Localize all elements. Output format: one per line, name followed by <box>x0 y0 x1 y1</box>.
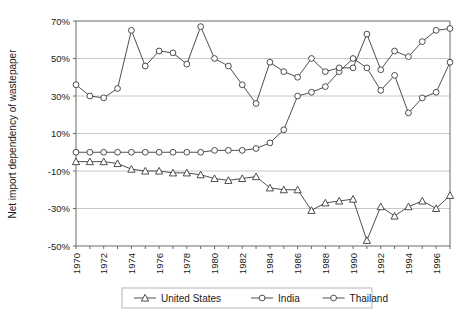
data-point <box>239 147 245 153</box>
y-tick-label: -30% <box>48 203 71 214</box>
y-axis-ticks: -50%-30%-10%10%30%50%70% <box>48 16 76 252</box>
data-point <box>322 84 328 90</box>
y-tick-label: 50% <box>51 53 71 64</box>
x-tick-label: 1982 <box>237 253 248 274</box>
series-line <box>76 162 450 241</box>
data-point <box>336 65 342 71</box>
x-tick-label: 1992 <box>375 253 386 274</box>
data-point <box>225 63 231 69</box>
data-point <box>115 86 121 92</box>
data-point <box>392 72 398 78</box>
data-point <box>295 93 301 99</box>
data-point <box>252 173 259 180</box>
data-point <box>433 89 439 95</box>
chart-container: Net import dependency of wastepaper -50%… <box>0 0 470 319</box>
data-point <box>308 207 315 214</box>
x-tick-label: 1972 <box>98 253 109 274</box>
data-point <box>198 24 204 30</box>
data-point <box>309 89 315 95</box>
data-point <box>115 149 121 155</box>
data-point <box>281 127 287 133</box>
data-point <box>349 196 356 203</box>
data-point <box>350 56 356 62</box>
data-point <box>391 212 398 219</box>
data-point <box>101 149 107 155</box>
data-point <box>184 149 190 155</box>
data-point <box>406 54 412 60</box>
data-point <box>295 74 301 80</box>
y-axis-title: Net import dependency of wastepaper <box>7 49 18 219</box>
data-point <box>392 48 398 54</box>
data-point <box>101 95 107 101</box>
data-point <box>212 147 218 153</box>
data-point <box>128 166 135 173</box>
y-tick-label: -50% <box>48 241 71 252</box>
series-thailand <box>73 24 453 107</box>
data-point <box>253 146 259 152</box>
series-line <box>76 27 450 104</box>
x-tick-label: 1988 <box>320 253 331 274</box>
data-point <box>405 203 412 210</box>
data-point <box>377 203 384 210</box>
legend-label: India <box>278 293 300 304</box>
x-tick-label: 1978 <box>181 253 192 274</box>
data-point <box>129 27 135 33</box>
chart-legend: United StatesIndiaThailand <box>122 288 388 308</box>
data-point <box>406 110 412 116</box>
data-point <box>378 87 384 93</box>
data-point <box>87 149 93 155</box>
data-point <box>364 31 370 37</box>
data-point <box>419 39 425 45</box>
legend-label: Thailand <box>350 293 388 304</box>
x-tick-label: 1970 <box>71 253 82 274</box>
data-point <box>239 82 245 88</box>
data-point <box>156 149 162 155</box>
data-point <box>142 63 148 69</box>
wastepaper-import-dependency-line-chart: Net import dependency of wastepaper -50%… <box>0 0 470 319</box>
x-tick-label: 1986 <box>292 253 303 274</box>
data-point <box>73 149 79 155</box>
data-point <box>129 149 135 155</box>
x-axis-ticks: 1970197219741976197819801982198419861988… <box>71 246 451 274</box>
x-tick-label: 1984 <box>264 253 275 274</box>
grid-lines <box>76 59 450 209</box>
legend-marker-icon <box>259 295 265 301</box>
data-point <box>447 59 453 65</box>
data-point <box>419 95 425 101</box>
data-point <box>364 65 370 71</box>
data-point <box>419 197 426 204</box>
data-point <box>73 82 79 88</box>
data-point <box>322 69 328 75</box>
data-point <box>447 26 453 32</box>
data-point <box>446 192 453 199</box>
data-point <box>350 65 356 71</box>
x-tick-label: 1974 <box>126 253 137 274</box>
data-point <box>156 48 162 54</box>
data-point <box>142 149 148 155</box>
data-point <box>309 56 315 62</box>
data-point <box>225 147 231 153</box>
data-point <box>253 101 259 107</box>
data-point <box>87 93 93 99</box>
data-point <box>267 140 273 146</box>
y-tick-label: -10% <box>48 166 71 177</box>
y-tick-label: 30% <box>51 91 71 102</box>
data-point <box>281 69 287 75</box>
x-tick-label: 1976 <box>154 253 165 274</box>
data-point <box>378 67 384 73</box>
y-tick-label: 70% <box>51 16 71 27</box>
data-point <box>170 149 176 155</box>
data-point <box>198 149 204 155</box>
x-tick-label: 1996 <box>431 253 442 274</box>
legend-marker-icon <box>331 295 337 301</box>
y-tick-label: 10% <box>51 128 71 139</box>
x-tick-label: 1990 <box>348 253 359 274</box>
data-point <box>170 50 176 56</box>
data-point <box>184 61 190 67</box>
data-point <box>212 56 218 62</box>
x-tick-label: 1980 <box>209 253 220 274</box>
series-india <box>73 56 453 156</box>
data-point <box>433 27 439 33</box>
legend-label: United States <box>161 293 221 304</box>
x-tick-label: 1994 <box>403 253 414 274</box>
